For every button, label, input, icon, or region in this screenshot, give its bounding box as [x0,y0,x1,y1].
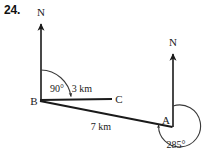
bearing-diagram: N N B C A 3 km 7 km 90° 285° [0,0,202,157]
segment-bc [40,99,112,100]
point-label-a: A [162,114,170,126]
point-label-b: B [30,95,37,107]
north-label-b: N [37,6,45,18]
angle-label-a: 285° [167,139,186,150]
distance-label-bc: 3 km [72,83,93,94]
distance-label-ba: 7 km [91,121,112,132]
angle-label-b: 90° [50,83,64,94]
point-label-c: C [115,93,122,105]
north-label-a: N [169,36,177,48]
